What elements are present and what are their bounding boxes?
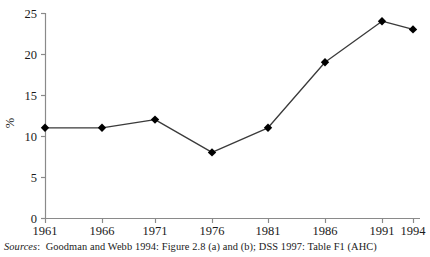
x-axis-tick-label: 1981 bbox=[256, 224, 281, 238]
y-axis-ticks bbox=[41, 14, 45, 219]
y-axis-tick-labels: 0510152025 bbox=[25, 7, 38, 226]
y-axis-tick-label: 5 bbox=[31, 171, 37, 185]
data-point-marker bbox=[409, 25, 417, 33]
y-axis-tick-label: 10 bbox=[25, 130, 38, 144]
chart-figure: 0510152025 19611966197119761981198619911… bbox=[0, 0, 430, 257]
x-axis-tick-label: 1991 bbox=[370, 224, 395, 238]
y-axis-tick-label: 25 bbox=[25, 7, 38, 21]
source-label: Sources bbox=[4, 241, 37, 252]
data-point-marker bbox=[98, 124, 106, 132]
data-point-marker bbox=[151, 115, 159, 123]
source-text: Goodman and Webb 1994: Figure 2.8 (a) an… bbox=[46, 241, 377, 252]
data-point-marker bbox=[378, 17, 386, 25]
y-axis-tick-label: 15 bbox=[25, 89, 38, 103]
series-line bbox=[45, 21, 413, 152]
source-separator: : bbox=[37, 241, 40, 252]
x-axis-tick-labels: 19611966197119761981198619911994 bbox=[33, 224, 427, 238]
data-point-marker bbox=[41, 124, 49, 132]
x-axis-tick-label: 1976 bbox=[200, 224, 225, 238]
series-markers bbox=[41, 17, 417, 157]
x-axis-tick-label: 1994 bbox=[401, 224, 427, 238]
x-axis-tick-label: 1971 bbox=[143, 224, 168, 238]
y-axis-tick-label: 20 bbox=[25, 48, 38, 62]
x-axis-tick-label: 1966 bbox=[90, 224, 115, 238]
x-axis-tick-label: 1961 bbox=[33, 224, 58, 238]
y-axis-title: % bbox=[3, 118, 17, 128]
source-note: Sources: Goodman and Webb 1994: Figure 2… bbox=[4, 240, 428, 253]
data-point-marker bbox=[208, 148, 216, 156]
x-axis-tick-label: 1986 bbox=[313, 224, 338, 238]
line-chart-plot: 0510152025 19611966197119761981198619911… bbox=[0, 0, 430, 257]
